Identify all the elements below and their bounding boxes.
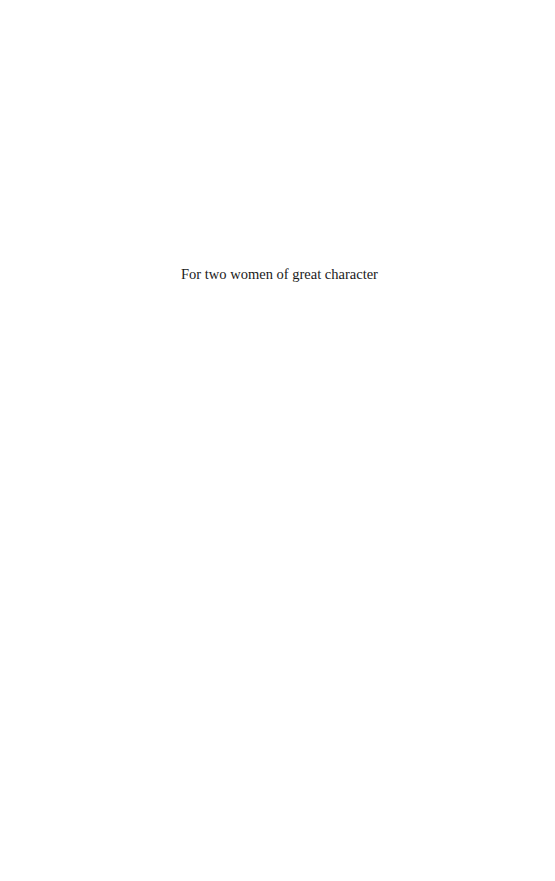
document-page: For two women of great character [0,0,555,881]
dedication-text: For two women of great character [0,265,555,283]
